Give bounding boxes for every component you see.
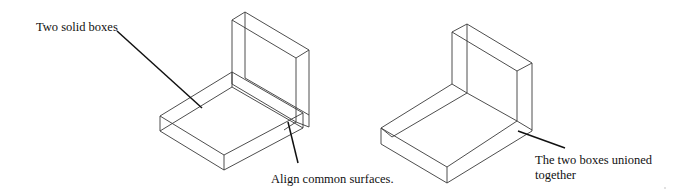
label-boxes-unioned: The two boxes unioned together — [535, 153, 652, 183]
label-boxes-unioned-line1: The two boxes unioned — [535, 153, 652, 168]
stray-mark — [664, 187, 666, 189]
left-figure-two-boxes — [117, 12, 309, 170]
vertical-panel-box — [232, 12, 309, 130]
leader-unioned — [518, 131, 565, 148]
horizontal-slab-box — [160, 72, 303, 170]
leader-two-solid-boxes — [117, 31, 202, 108]
label-boxes-unioned-line2: together — [535, 168, 652, 183]
label-two-solid-boxes: Two solid boxes — [36, 20, 118, 35]
leader-align-surfaces — [288, 122, 298, 163]
label-align-common-surfaces: Align common surfaces. — [271, 172, 394, 187]
